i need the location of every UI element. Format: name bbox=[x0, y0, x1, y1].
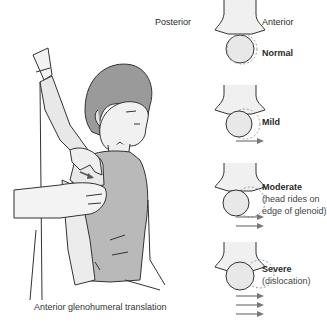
grade-moderate-title: Moderate bbox=[262, 182, 302, 193]
patient-illustration bbox=[14, 48, 165, 300]
grade-mild-title: Mild bbox=[262, 117, 280, 128]
grade-severe-detail: (dislocation) bbox=[262, 276, 311, 287]
grade-normal-title: Normal bbox=[262, 48, 293, 59]
joint-mild bbox=[215, 85, 265, 144]
grade-moderate-detail-2: edge of glenoid) bbox=[262, 206, 327, 217]
posterior-label: Posterior bbox=[155, 17, 191, 28]
joint-moderate bbox=[215, 163, 265, 229]
illustration-caption: Anterior glenohumeral translation bbox=[34, 302, 167, 313]
anterior-label: Anterior bbox=[262, 17, 294, 28]
grade-moderate-detail-1: (head rides on bbox=[262, 194, 320, 205]
grade-severe-title: Severe bbox=[262, 264, 292, 275]
joint-normal bbox=[215, 0, 265, 64]
